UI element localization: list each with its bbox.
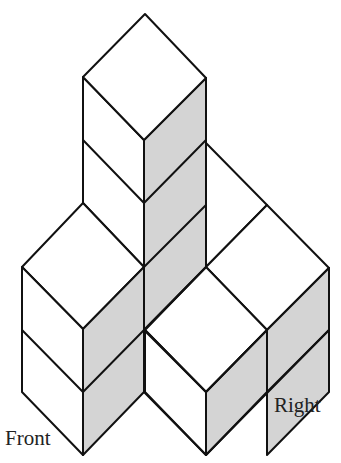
front-label: Front — [5, 426, 51, 451]
right-label: Right — [274, 393, 321, 418]
